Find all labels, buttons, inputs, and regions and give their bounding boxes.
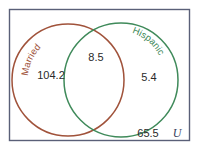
universe-label: U	[173, 126, 183, 140]
married-only-value: 104.2	[37, 69, 65, 81]
hispanic-only-value: 5.4	[141, 71, 156, 83]
venn-diagram: Married Hispanic 104.2 8.5 5.4 65.5 U	[0, 0, 198, 148]
intersection-value: 8.5	[88, 51, 103, 63]
outside-value: 65.5	[137, 127, 158, 139]
